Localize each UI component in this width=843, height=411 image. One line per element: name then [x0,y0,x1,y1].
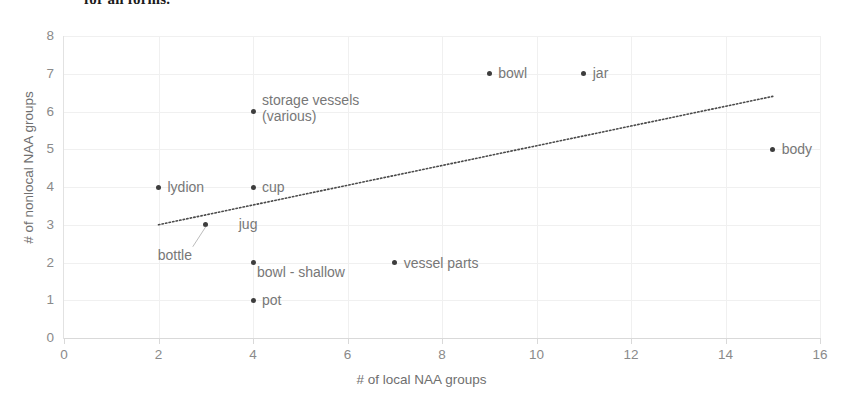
chart-figure: for all forms. # of local NAA groups # o… [0,0,843,411]
bottle-leader-line [0,0,843,411]
